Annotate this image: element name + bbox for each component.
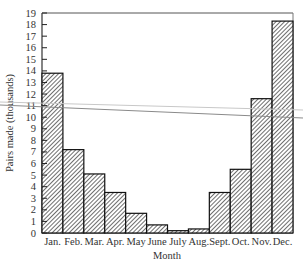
bar-nov — [251, 99, 272, 233]
bar-sept — [209, 192, 230, 233]
x-tick-label: Mar. — [85, 236, 105, 247]
x-tick-label: Dec. — [273, 236, 293, 247]
x-axis: Jan.Feb.Mar.Apr.MayJuneJulyAug.Sept.Oct.… — [44, 236, 292, 247]
y-tick-label: 18 — [26, 19, 37, 30]
y-tick-label: 5 — [31, 170, 36, 181]
x-tick-label: May — [127, 236, 147, 247]
bar-chart: 012345678910111213141516171819 Jan.Feb.M… — [0, 0, 303, 265]
x-tick-label: Oct. — [232, 236, 250, 247]
bar-oct — [230, 169, 251, 233]
y-tick-label: 11 — [26, 100, 36, 111]
y-tick-label: 7 — [31, 146, 36, 157]
bar-mar — [84, 174, 105, 233]
y-tick-label: 4 — [31, 181, 37, 192]
y-tick-label: 12 — [26, 89, 37, 100]
x-tick-label: Feb. — [64, 236, 82, 247]
y-axis-title: Pairs made (thousands) — [4, 74, 16, 172]
bar-june — [147, 225, 168, 233]
bar-dec — [272, 21, 293, 233]
y-tick-label: 0 — [31, 228, 36, 239]
bar-apr — [105, 192, 126, 233]
x-axis-title: Month — [153, 250, 182, 261]
y-tick-label: 19 — [26, 8, 37, 19]
bar-july — [168, 231, 189, 233]
bar-aug — [188, 229, 209, 233]
y-tick-label: 17 — [26, 31, 37, 42]
y-tick-label: 10 — [26, 112, 37, 123]
x-tick-label: Nov. — [252, 236, 272, 247]
bars-group — [42, 21, 293, 233]
x-tick-label: Sept. — [209, 236, 230, 247]
y-tick-label: 2 — [31, 204, 36, 215]
y-tick-label: 3 — [31, 193, 36, 204]
bar-feb — [63, 150, 84, 233]
y-tick-label: 15 — [26, 54, 37, 65]
x-tick-label: Jan. — [44, 236, 61, 247]
x-tick-label: Aug. — [189, 236, 210, 247]
y-tick-label: 6 — [31, 158, 36, 169]
x-tick-label: June — [147, 236, 167, 247]
bar-jan — [42, 73, 63, 233]
y-tick-label: 14 — [26, 65, 37, 76]
y-tick-label: 8 — [31, 135, 36, 146]
x-tick-label: Apr. — [106, 236, 124, 247]
y-tick-label: 13 — [26, 77, 37, 88]
y-tick-label: 9 — [31, 123, 36, 134]
y-tick-label: 16 — [26, 42, 37, 53]
y-tick-label: 1 — [31, 216, 36, 227]
bar-may — [126, 213, 147, 233]
x-tick-label: July — [169, 236, 187, 247]
